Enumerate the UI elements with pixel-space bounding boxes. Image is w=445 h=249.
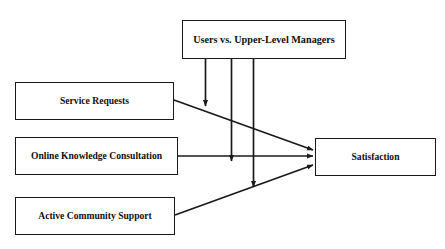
node-label-satisfaction: Satisfaction: [352, 152, 400, 163]
node-active-community-support: Active Community Support: [15, 197, 175, 235]
node-online-knowledge-consultation: Online Knowledge Consultation: [15, 137, 178, 175]
path-active-community-to-satisfaction: [175, 165, 313, 215]
node-label-moderator: Users vs. Upper-Level Managers: [193, 34, 335, 45]
node-service-requests: Service Requests: [15, 82, 174, 120]
path-service-requests-to-satisfaction: [174, 100, 313, 150]
node-label-service-requests: Service Requests: [60, 96, 129, 107]
node-label-online-knowledge-consultation: Online Knowledge Consultation: [31, 151, 162, 162]
research-model-diagram: Users vs. Upper-Level Managers Service R…: [0, 0, 445, 249]
node-satisfaction: Satisfaction: [315, 138, 436, 176]
node-users-vs-upper-level-managers: Users vs. Upper-Level Managers: [182, 20, 346, 59]
node-label-active-community-support: Active Community Support: [38, 211, 152, 222]
